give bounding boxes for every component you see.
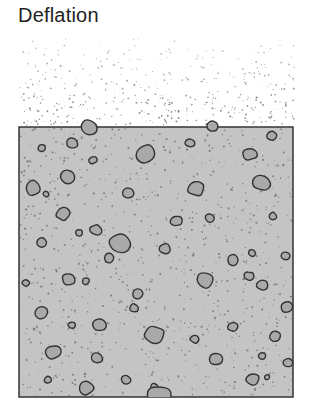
pebble <box>281 252 290 260</box>
pebble <box>22 280 30 286</box>
pebble <box>93 319 107 330</box>
pebble <box>188 182 204 196</box>
bottom-pebbles <box>147 387 171 406</box>
pebble <box>35 307 48 319</box>
pebble <box>121 375 130 384</box>
pebble <box>246 374 259 385</box>
pebble <box>61 170 75 184</box>
pebble <box>185 139 195 147</box>
pebble <box>91 353 102 363</box>
pebble <box>38 145 45 152</box>
pebble <box>258 353 265 360</box>
wind-blown-dust <box>19 38 294 125</box>
pebble <box>123 188 134 198</box>
pebble <box>281 302 292 313</box>
pebble <box>44 376 51 383</box>
deflation-diagram <box>0 0 310 413</box>
pebble <box>265 375 270 380</box>
pebble <box>267 131 277 140</box>
pebble <box>89 157 97 164</box>
pebble <box>270 331 281 341</box>
pebble <box>244 272 254 280</box>
pebble <box>105 253 114 263</box>
pebble <box>283 358 293 366</box>
pebble <box>205 214 214 222</box>
pebble <box>249 250 256 257</box>
pebble <box>68 322 75 328</box>
sediment-layer <box>19 127 293 397</box>
pebble <box>43 191 49 197</box>
pebble <box>147 387 171 406</box>
pebble <box>67 138 78 148</box>
pebble <box>170 216 182 225</box>
pebble <box>228 255 238 266</box>
pebble <box>256 280 267 290</box>
pebble <box>133 289 143 299</box>
pebble <box>63 274 75 285</box>
surface-pebble <box>207 121 218 131</box>
pebble <box>159 244 170 254</box>
pebble <box>83 278 90 285</box>
pebble <box>209 354 222 365</box>
pebble <box>269 212 277 219</box>
pebble <box>76 230 83 236</box>
pebble <box>243 149 257 160</box>
pebble <box>90 225 102 235</box>
surface-pebble <box>81 120 97 135</box>
pebble <box>109 234 130 253</box>
pebble <box>228 322 238 331</box>
pebble <box>37 238 47 247</box>
